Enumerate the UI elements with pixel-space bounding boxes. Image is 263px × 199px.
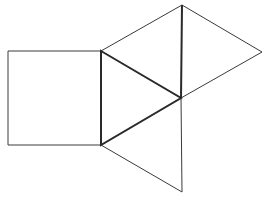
shared-edge-vertical [181,5,182,98]
top-triangle [101,5,182,51]
center-triangle [101,51,181,145]
geometric-net-diagram [0,0,263,199]
square [8,51,101,145]
bottom-triangle [101,98,182,192]
right-triangle [181,5,262,98]
